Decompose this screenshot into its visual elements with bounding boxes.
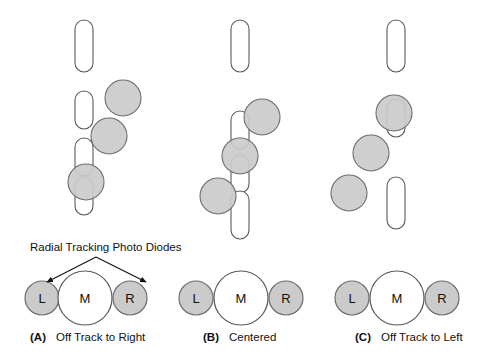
- pit-mark: [387, 177, 405, 229]
- photo-diode-label-r: R: [281, 291, 290, 306]
- caption-c: (C)Off Track to Left: [355, 331, 463, 343]
- panel-c: LMR: [331, 20, 459, 325]
- photo-diode-label-r: R: [437, 291, 446, 306]
- figure-root: LMRLMRLMR Radial Tracking Photo Diodes (…: [0, 0, 481, 360]
- photo-diode-array-b: LMR: [179, 271, 303, 325]
- photo-diode-label-l: L: [192, 291, 199, 306]
- pit-mark: [231, 20, 249, 72]
- photo-diode-label-m: M: [80, 291, 91, 306]
- panels-layer: LMRLMRLMR: [25, 20, 459, 325]
- photo-diode-array-c: LMR: [335, 271, 459, 325]
- beam-spot: [244, 99, 280, 135]
- caption-text-a: Off Track to Right: [56, 331, 146, 343]
- beam-spot: [68, 164, 104, 200]
- photo-diode-label-m: M: [392, 291, 403, 306]
- beam-spot: [200, 178, 236, 214]
- photo-diode-array-a: LMR: [25, 271, 147, 325]
- photo-diode-label-l: L: [348, 291, 355, 306]
- pit-mark: [75, 91, 93, 129]
- caption-text-c: Off Track to Left: [381, 331, 463, 343]
- beam-spot: [353, 135, 389, 171]
- captions-layer: (A)Off Track to Right(B)Centered(C)Off T…: [30, 331, 463, 343]
- pit-mark: [75, 20, 93, 72]
- caption-text-b: Centered: [229, 331, 276, 343]
- photo-diode-label-m: M: [236, 291, 247, 306]
- beam-spot: [91, 118, 127, 154]
- caption-a: (A)Off Track to Right: [30, 331, 146, 343]
- pit-mark: [387, 20, 405, 72]
- caption-tag-a: (A): [30, 331, 46, 343]
- beam-spot: [331, 175, 367, 211]
- annotation-label: Radial Tracking Photo Diodes: [30, 241, 182, 253]
- caption-tag-c: (C): [355, 331, 371, 343]
- beam-spot: [376, 95, 412, 131]
- beam-spot: [222, 138, 258, 174]
- caption-tag-b: (B): [203, 331, 219, 343]
- radial-tracking-diagram: LMRLMRLMR Radial Tracking Photo Diodes (…: [0, 0, 481, 360]
- panel-b: LMR: [179, 20, 303, 325]
- beam-spot: [105, 80, 141, 116]
- annotation-layer: Radial Tracking Photo Diodes: [30, 241, 182, 282]
- caption-b: (B)Centered: [203, 331, 276, 343]
- panel-a: LMR: [25, 20, 147, 325]
- pit-track-b: [231, 20, 249, 239]
- photo-diode-label-r: R: [125, 291, 134, 306]
- photo-diode-label-l: L: [38, 291, 45, 306]
